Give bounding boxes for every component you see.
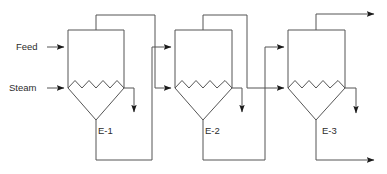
e-1-cone-bottom: [68, 88, 124, 120]
stream-e1-vapor-to-e2-coil: [96, 15, 171, 88]
vessel-e-1: [68, 30, 124, 120]
stream-e1-condensate-drain: [124, 88, 134, 112]
stream-e2-condensate-drain: [232, 88, 242, 112]
vessel-e-2: [175, 30, 232, 120]
e-1-heating-coil: [68, 81, 124, 89]
stream-e2-liquor-to-e3-shell: [203, 47, 284, 160]
label-steam: Steam: [9, 82, 37, 93]
flowsheet-canvas: Feed Steam E-1 E-2 E-3: [0, 0, 387, 174]
process-flow-diagram: Feed Steam E-1 E-2 E-3: [0, 0, 387, 174]
stream-e3-condensate-drain: [345, 88, 356, 113]
label-feed: Feed: [16, 41, 38, 52]
stream-e3-vapor-outlet: [316, 14, 374, 30]
stream-e2-vapor-to-e3-coil: [203, 15, 284, 88]
e-3-heating-coil: [288, 81, 345, 89]
label-vessel-e-3: E-3: [322, 125, 337, 136]
e-2-cone-bottom: [175, 88, 232, 120]
label-vessel-e-1: E-1: [98, 125, 113, 136]
label-vessel-e-2: E-2: [205, 125, 220, 136]
e-2-heating-coil: [175, 81, 232, 89]
vessel-e-3: [288, 30, 345, 120]
e-3-cone-bottom: [288, 88, 345, 120]
